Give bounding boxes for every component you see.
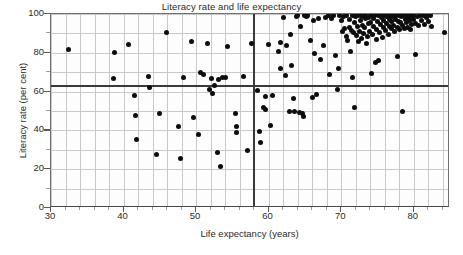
data-point	[132, 93, 137, 98]
gridline-horizontal	[51, 72, 448, 73]
gridline-vertical	[80, 14, 81, 206]
y-axis-minor-tick	[46, 32, 50, 33]
x-axis-minor-tick	[181, 207, 182, 210]
data-point	[377, 30, 382, 35]
data-point	[154, 152, 159, 157]
plot-area	[50, 13, 449, 207]
data-point	[205, 41, 210, 46]
data-point	[314, 92, 319, 97]
data-point	[147, 85, 152, 90]
data-point	[408, 27, 413, 32]
x-axis-minor-tick	[65, 207, 66, 210]
data-point	[112, 50, 117, 55]
data-point	[289, 63, 294, 68]
data-point	[298, 24, 303, 29]
data-point	[245, 148, 250, 153]
data-point	[210, 91, 215, 96]
x-axis-tick-label: 80	[398, 211, 428, 221]
data-point	[413, 52, 418, 57]
data-point	[321, 43, 326, 48]
data-point	[336, 66, 341, 71]
data-point	[268, 123, 273, 128]
data-point	[318, 57, 323, 62]
data-point	[428, 13, 433, 18]
data-point	[263, 94, 268, 99]
x-axis-tick-label: 30	[35, 211, 65, 221]
data-point	[178, 156, 183, 161]
gridline-vertical	[153, 14, 154, 206]
data-point	[157, 111, 162, 116]
x-axis-minor-tick	[239, 207, 240, 210]
data-point	[212, 83, 217, 88]
data-point	[215, 150, 220, 155]
data-point	[316, 16, 321, 21]
gridline-horizontal	[51, 189, 448, 190]
gridline-vertical	[167, 14, 168, 206]
data-point	[191, 115, 196, 120]
y-axis-minor-tick	[46, 71, 50, 72]
gridline-vertical	[124, 14, 125, 206]
gridline-vertical	[370, 14, 371, 206]
data-point	[223, 75, 228, 80]
x-axis-minor-tick	[137, 207, 138, 210]
y-axis-tick-mark	[44, 168, 50, 169]
y-axis-tick-mark	[44, 13, 50, 14]
data-point	[241, 74, 246, 79]
y-axis-tick-mark	[44, 91, 50, 92]
y-axis-minor-tick	[46, 110, 50, 111]
gridline-vertical	[414, 14, 415, 206]
data-point	[355, 24, 360, 29]
y-axis-title: Literacy rate (per cent)	[17, 26, 28, 196]
data-point	[374, 37, 379, 42]
data-point	[209, 76, 214, 81]
data-point	[189, 39, 194, 44]
data-point	[201, 72, 206, 77]
gridline-vertical	[385, 14, 386, 206]
x-axis-tick-label: 50	[180, 211, 210, 221]
y-axis-tick-mark	[44, 52, 50, 53]
data-point	[176, 124, 181, 129]
gridline-horizontal	[51, 169, 448, 170]
y-axis-minor-tick	[46, 188, 50, 189]
x-axis-minor-tick	[384, 207, 385, 210]
data-point	[181, 75, 186, 80]
data-point	[352, 105, 357, 110]
x-axis-minor-tick	[253, 207, 254, 210]
gridline-vertical	[341, 14, 342, 206]
data-point	[327, 72, 332, 77]
gridline-vertical	[109, 14, 110, 206]
y-axis-minor-tick	[46, 149, 50, 150]
data-point	[376, 58, 381, 63]
data-point	[281, 15, 286, 20]
data-point	[266, 42, 271, 47]
data-point	[164, 30, 169, 35]
data-point	[288, 32, 293, 37]
data-point	[291, 96, 296, 101]
x-axis-minor-tick	[108, 207, 109, 210]
data-point	[196, 132, 201, 137]
x-axis-tick-label: 40	[108, 211, 138, 221]
data-point	[370, 32, 375, 37]
reference-line-horizontal	[51, 85, 448, 87]
gridline-vertical	[95, 14, 96, 206]
x-axis-minor-tick	[427, 207, 428, 210]
data-point	[111, 76, 116, 81]
gridline-vertical	[327, 14, 328, 206]
x-axis-minor-tick	[282, 207, 283, 210]
x-axis-minor-tick	[355, 207, 356, 210]
gridline-horizontal	[51, 130, 448, 131]
y-axis-tick-mark	[44, 129, 50, 130]
data-point	[301, 114, 306, 119]
x-axis-minor-tick	[442, 207, 443, 210]
scatter-chart: Literacy rate and life expectancy 020406…	[0, 0, 463, 255]
x-axis-tick-label: 70	[325, 211, 355, 221]
gridline-vertical	[312, 14, 313, 206]
data-point	[331, 13, 336, 18]
data-point	[312, 51, 317, 56]
data-point	[283, 73, 288, 78]
x-axis-minor-tick	[94, 207, 95, 210]
data-point	[350, 75, 355, 80]
data-point	[225, 44, 230, 49]
gridline-vertical	[66, 14, 67, 206]
x-axis-tick-label: 60	[253, 211, 283, 221]
